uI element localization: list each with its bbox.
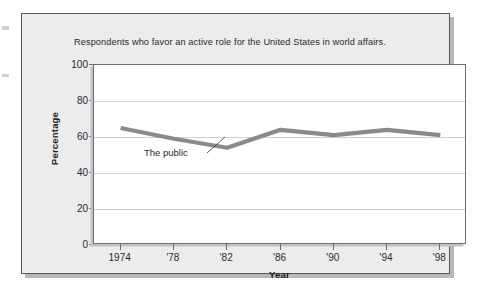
- annotation-leader-line: [207, 136, 229, 154]
- x-axis-tick-mark: [333, 244, 334, 250]
- x-axis-tick-label: '86: [259, 252, 301, 263]
- x-axis-tick-labels: 1974'78'82'86'90'94'98: [93, 252, 466, 266]
- y-axis-title: Percentage: [49, 99, 60, 179]
- y-axis-tick-labels: 020406080100: [60, 64, 88, 244]
- y-axis-tick-label: 80: [62, 95, 88, 106]
- series-annotation-label: The public: [144, 147, 188, 158]
- x-axis-title: Year: [93, 269, 466, 280]
- x-axis-tick-mark: [280, 244, 281, 250]
- y-axis-tick-label: 40: [62, 167, 88, 178]
- x-axis-tick-mark: [120, 244, 121, 250]
- x-axis-tick-mark: [226, 244, 227, 250]
- x-axis-tick-label: '90: [312, 252, 354, 263]
- x-axis-tick-label: '78: [152, 252, 194, 263]
- y-axis-tick-label: 0: [62, 239, 88, 250]
- x-axis-tick-mark: [173, 244, 174, 250]
- page-edge-mark-bottom: [2, 74, 9, 77]
- chart-title: Respondents who favor an active role for…: [74, 37, 386, 47]
- x-axis-tick-label: '82: [205, 252, 247, 263]
- x-axis-tick-label: '94: [365, 252, 407, 263]
- x-axis-tick-label: 1974: [99, 252, 141, 263]
- y-axis-tick-label: 100: [62, 59, 88, 70]
- x-axis-tick-label: '98: [418, 252, 460, 263]
- x-axis-tick-mark: [386, 244, 387, 250]
- y-axis-tick-label: 60: [62, 131, 88, 142]
- page-edge-mark-top: [2, 26, 9, 30]
- x-axis-tick-mark: [439, 244, 440, 250]
- x-axis-tick-marks: [93, 244, 466, 250]
- y-axis-tick-label: 20: [62, 203, 88, 214]
- figure-container: Respondents who favor an active role for…: [21, 13, 450, 274]
